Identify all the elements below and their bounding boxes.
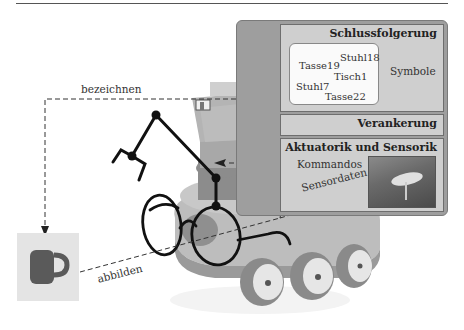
layer-title-aktuatorik: Aktuatorik und Sensorik	[285, 141, 437, 154]
layer-title-verankerung: Verankerung	[357, 117, 437, 130]
denote-label: bezeichnen	[81, 83, 141, 95]
symbol-tasse22: Tasse22	[325, 91, 366, 102]
mug-image	[17, 233, 79, 301]
symbol-stuhl18: Stuhl18	[340, 52, 380, 63]
layer-title-schlussfolgerung: Schlussfolgerung	[329, 27, 437, 40]
layer-verankerung: Verankerung	[280, 114, 444, 136]
photo-table-leg	[405, 182, 407, 200]
photo-table	[390, 170, 424, 188]
symbols-label: Symbole	[390, 65, 436, 77]
symbol-tisch1: Tisch1	[334, 71, 367, 82]
room-photo	[368, 156, 436, 208]
symbol-tasse19: Tasse19	[299, 60, 340, 71]
mug-icon	[17, 233, 79, 301]
symbol-box: Tasse19 Stuhl18 Tisch1 Stuhl7 Tasse22	[289, 43, 379, 105]
